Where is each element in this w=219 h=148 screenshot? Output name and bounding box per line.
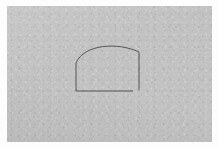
line-drawing — [0, 0, 219, 148]
image-canvas — [0, 0, 219, 148]
arch-curve-stroke — [76, 46, 139, 63]
drawing-svg — [0, 0, 219, 148]
